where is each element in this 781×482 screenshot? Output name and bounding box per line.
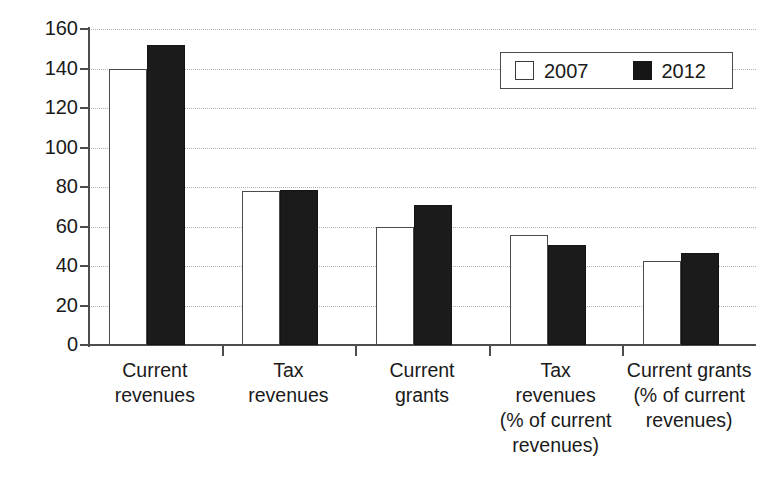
x-axis-label-line: Current bbox=[82, 358, 228, 383]
x-axis-label-line: Tax bbox=[483, 358, 629, 383]
x-axis-category-label-5: Current grants(% of currentrevenues) bbox=[616, 358, 762, 433]
x-axis-label-line: revenues bbox=[82, 383, 228, 408]
y-axis-tick-label: 100 bbox=[4, 137, 78, 157]
x-axis-tick bbox=[489, 346, 491, 356]
bar-2012-4 bbox=[548, 245, 586, 345]
bar-2007-1 bbox=[109, 69, 147, 346]
y-axis-tick-label-wrap: 140 bbox=[0, 58, 78, 78]
bar-2007-3 bbox=[376, 227, 414, 346]
y-axis-tick-label: 80 bbox=[4, 176, 78, 196]
x-axis-label-line: grants bbox=[349, 383, 495, 408]
bar-2012-3 bbox=[414, 205, 452, 345]
y-axis-tick-label-wrap: 40 bbox=[0, 255, 78, 275]
x-axis-label-line: revenues) bbox=[616, 408, 762, 433]
x-axis-label-line: (% of current bbox=[483, 408, 629, 433]
bar-chart: 020406080100120140160 CurrentrevenuesTax… bbox=[0, 0, 781, 482]
y-axis-tick-label: 40 bbox=[4, 255, 78, 275]
y-axis-tick-label-wrap: 60 bbox=[0, 216, 78, 236]
x-axis-label-line: Tax bbox=[216, 358, 362, 383]
legend-entry-2012: 2012 bbox=[633, 53, 707, 88]
x-axis-category-label-1: Currentrevenues bbox=[82, 358, 228, 408]
legend-label-2012: 2012 bbox=[662, 61, 707, 81]
y-axis-tick-label-wrap: 0 bbox=[0, 334, 78, 354]
y-axis-tick-label-wrap: 80 bbox=[0, 176, 78, 196]
x-axis-label-line: (% of current bbox=[616, 383, 762, 408]
bar-2007-4 bbox=[510, 235, 548, 345]
y-axis-tick-label: 20 bbox=[4, 295, 78, 315]
legend-swatch-open-square-icon bbox=[515, 61, 534, 80]
bar-2012-1 bbox=[147, 45, 185, 345]
y-axis-tick-label: 160 bbox=[4, 18, 78, 38]
legend-label-2007: 2007 bbox=[544, 61, 589, 81]
legend-entry-2007: 2007 bbox=[515, 53, 589, 88]
y-axis-tick-label-wrap: 20 bbox=[0, 295, 78, 315]
y-axis-tick-label: 0 bbox=[4, 334, 78, 354]
y-axis-tick-label-wrap: 160 bbox=[0, 18, 78, 38]
y-axis-tick-label: 120 bbox=[4, 97, 78, 117]
x-axis-label-line: revenues bbox=[483, 383, 629, 408]
x-axis-tick bbox=[222, 346, 224, 356]
y-axis-tick-label-wrap: 100 bbox=[0, 137, 78, 157]
y-axis-tick-label: 60 bbox=[4, 216, 78, 236]
x-axis-tick bbox=[355, 346, 357, 356]
x-axis-category-label-3: Currentgrants bbox=[349, 358, 495, 408]
bar-2012-5 bbox=[681, 253, 719, 345]
y-axis-tick-label: 140 bbox=[4, 58, 78, 78]
bar-2007-5 bbox=[643, 261, 681, 345]
x-axis-label-line: Current grants bbox=[616, 358, 762, 383]
x-axis-label-line: revenues bbox=[216, 383, 362, 408]
x-axis-tick bbox=[622, 346, 624, 356]
bar-2012-2 bbox=[280, 190, 318, 345]
bar-2007-2 bbox=[242, 191, 280, 345]
x-axis-category-labels: CurrentrevenuesTaxrevenuesCurrentgrantsT… bbox=[88, 358, 756, 478]
x-axis-label-line: revenues) bbox=[483, 433, 629, 458]
x-axis-label-line: Current bbox=[349, 358, 495, 383]
y-axis-tick-label-wrap: 120 bbox=[0, 97, 78, 117]
legend-swatch-filled-square-icon bbox=[633, 61, 652, 80]
legend: 2007 2012 bbox=[500, 52, 733, 89]
x-axis-category-label-4: Taxrevenues(% of currentrevenues) bbox=[483, 358, 629, 458]
x-axis-category-label-2: Taxrevenues bbox=[216, 358, 362, 408]
